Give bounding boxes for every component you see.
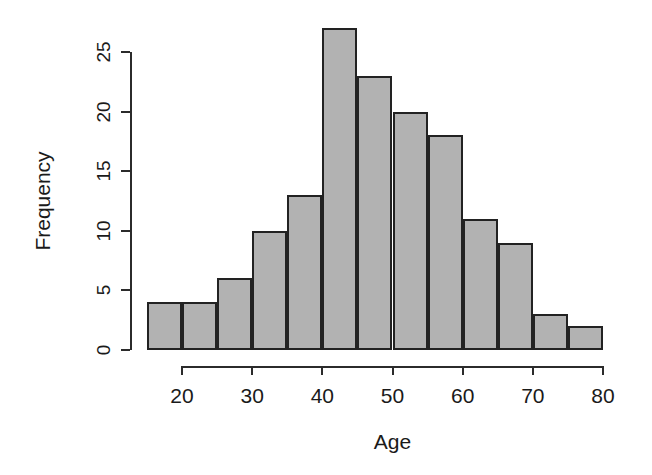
histogram-bar bbox=[428, 135, 463, 350]
x-axis-tick-label: 60 bbox=[451, 384, 474, 408]
x-axis-tick bbox=[181, 366, 183, 375]
histogram-bar bbox=[357, 76, 392, 350]
x-axis-tick bbox=[462, 366, 464, 375]
histogram-bar bbox=[217, 278, 252, 350]
x-axis-tick bbox=[251, 366, 253, 375]
x-axis-title: Age bbox=[374, 430, 411, 454]
histogram-bar bbox=[147, 302, 182, 350]
x-axis-tick-label: 50 bbox=[381, 384, 404, 408]
x-axis-tick bbox=[602, 366, 604, 375]
x-axis-tick bbox=[392, 366, 394, 375]
x-axis-tick-label: 30 bbox=[240, 384, 263, 408]
x-axis-tick bbox=[532, 366, 534, 375]
y-axis-title: Frequency bbox=[30, 151, 54, 250]
x-axis-tick bbox=[321, 366, 323, 375]
histogram-bar bbox=[533, 314, 568, 350]
histogram-bar bbox=[252, 231, 287, 350]
histogram-bar bbox=[287, 195, 322, 350]
histogram-bar bbox=[182, 302, 217, 350]
histogram-bar bbox=[463, 219, 498, 350]
x-axis-tick-label: 20 bbox=[170, 384, 193, 408]
histogram-plot: 0510152025 20304050607080 Age Frequency bbox=[0, 0, 652, 475]
histogram-bar bbox=[498, 243, 533, 350]
histogram-bar bbox=[393, 112, 428, 350]
x-axis-tick-label: 80 bbox=[591, 384, 614, 408]
x-axis-tick-label: 40 bbox=[311, 384, 334, 408]
x-axis-tick-label: 70 bbox=[521, 384, 544, 408]
histogram-bar bbox=[322, 28, 357, 350]
histogram-bar bbox=[568, 326, 603, 350]
